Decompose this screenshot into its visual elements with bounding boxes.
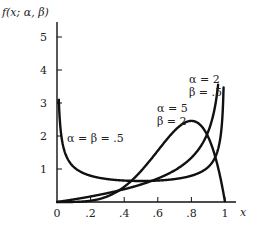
x-ticks: 0.2.4.6.81 <box>54 197 229 220</box>
y-tick-label: 3 <box>40 97 47 110</box>
x-tick-label: 1 <box>222 207 229 220</box>
y-tick-label: 1 <box>40 163 47 176</box>
y-tick-label: 4 <box>40 64 47 77</box>
label-beta2: β = 2 <box>157 115 187 128</box>
x-tick-label: .6 <box>153 207 164 220</box>
x-tick-label: .2 <box>85 207 96 220</box>
y-axis-label: f(x; α, β) <box>1 6 49 19</box>
x-tick-label: .8 <box>186 207 197 220</box>
label-alpha5: α = 5 <box>157 102 188 115</box>
x-tick-label: 0 <box>54 207 61 220</box>
y-tick-label: 2 <box>40 130 47 143</box>
label-alpha2: α = 2 <box>189 73 220 86</box>
x-tick-label: .4 <box>119 207 130 220</box>
y-tick-label: 5 <box>40 31 47 44</box>
beta-density-chart: 12345 0.2.4.6.81 f(x; α, β) x α = β = .5… <box>0 0 257 230</box>
x-axis-label: x <box>240 206 247 219</box>
label-alpha-beta-half: α = β = .5 <box>67 132 124 145</box>
label-beta-half: β = .5 <box>189 86 222 99</box>
